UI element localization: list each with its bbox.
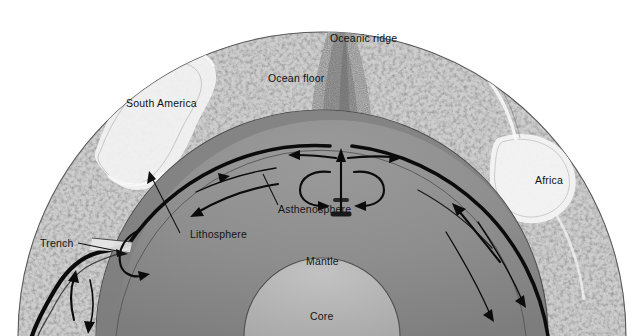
label-africa: Africa (535, 174, 563, 186)
label-south-america: South America (126, 97, 197, 109)
label-core: Core (310, 310, 334, 322)
earth-cross-section-svg: Oceanic ridge Ocean floor South America … (0, 0, 643, 336)
label-oceanic-ridge: Oceanic ridge (330, 32, 397, 44)
label-lithosphere: Lithosphere (190, 228, 247, 240)
label-ocean-floor: Ocean floor (268, 72, 325, 84)
label-trench: Trench (40, 237, 74, 249)
earth-cross-section-figure: Oceanic ridge Ocean floor South America … (0, 0, 643, 336)
label-mantle: Mantle (306, 255, 339, 267)
label-asthenosphere: Asthenosphere (278, 203, 351, 215)
